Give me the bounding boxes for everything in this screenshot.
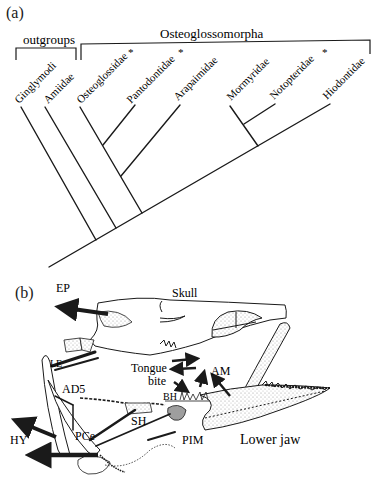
label-tongue: Tongue xyxy=(131,361,167,375)
label-le: LE xyxy=(50,358,62,369)
label-sh: SH xyxy=(131,414,147,428)
label-lower-jaw: Lower jaw xyxy=(240,432,301,447)
label-bh: BH xyxy=(163,391,177,402)
label-pce: PCe xyxy=(75,429,95,443)
label-am: AM xyxy=(211,364,231,378)
label-skull: Skull xyxy=(172,286,198,300)
lower-jaw xyxy=(200,385,330,430)
label-hy: HY xyxy=(10,433,28,447)
fish-head-diagram: Skull EP LE AD5 Tongue bite AM BH SH PCe… xyxy=(0,0,374,485)
basihyal-teeth xyxy=(180,392,208,400)
label-bite: bite xyxy=(148,374,166,388)
label-pim: PIM xyxy=(182,433,204,447)
label-ad5: AD5 xyxy=(62,382,85,396)
label-ep: EP xyxy=(56,281,70,295)
